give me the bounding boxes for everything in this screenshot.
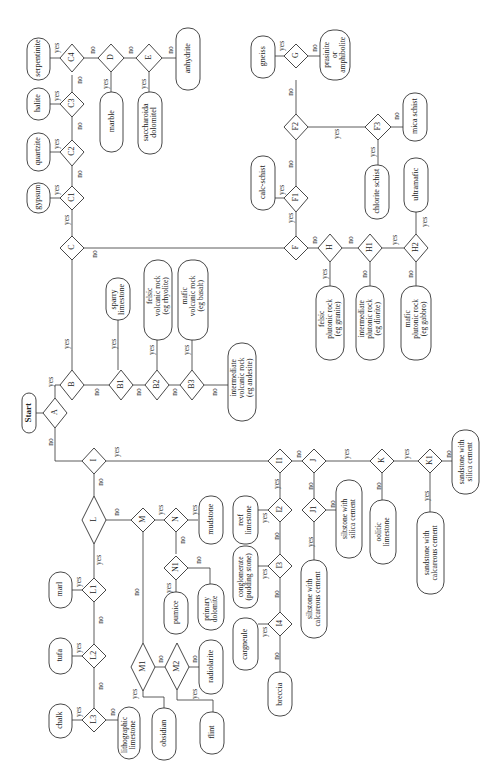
edge-label-c2-no: no <box>76 119 84 133</box>
edge-label-h1-yes: yes <box>391 233 399 247</box>
decision-c1: C1 <box>68 187 76 207</box>
outcome-chlorite-schist: chlorite schist <box>373 161 381 221</box>
outcome-pumice: pumice <box>172 582 180 642</box>
decision-a: A <box>51 402 59 422</box>
decision-c2: C2 <box>68 141 76 161</box>
outcome-conglomerate: conglomerate (pudding stone) <box>237 542 253 612</box>
decision-f1: F1 <box>292 187 300 207</box>
outcome-marl: marl <box>56 559 64 619</box>
decision-g: G <box>292 45 300 65</box>
decision-i3: I3 <box>276 555 284 575</box>
outcome-ultramafic: ultramafic <box>412 154 420 214</box>
decision-l3: L3 <box>90 709 98 729</box>
decision-e: E <box>145 47 153 67</box>
decision-f3: F3 <box>374 116 382 136</box>
edge-label-b-no: no <box>93 385 101 399</box>
edge-label-l1-yes: yes <box>75 575 83 589</box>
edge-label-m-no: no <box>133 585 141 599</box>
decision-i4: I4 <box>276 613 284 633</box>
decision-i1: I1 <box>276 450 284 470</box>
decision-l: L <box>90 509 98 529</box>
outcome-intermediate-plutonic: intermediate plutonic rock (eg diorite) <box>358 279 382 359</box>
edge-label-i3-no: no <box>273 587 281 601</box>
outcome-mafic-plutonic: mafic plutonic rock (eg gabbro) <box>404 279 428 359</box>
outcome-calc-schist: calc-schist <box>259 152 267 212</box>
decision-f2: F2 <box>292 116 300 136</box>
edge-label-l1-no: no <box>97 613 105 627</box>
edge-label-f1-yes: yes <box>278 183 286 197</box>
edge-label-h1-no: no <box>361 267 369 281</box>
decision-i2: I2 <box>276 499 284 519</box>
outcome-radiolarite: radiolarite <box>207 636 215 696</box>
edge-label-j1-yes: yes <box>307 535 315 549</box>
edge-label-i-yes: yes <box>113 445 121 459</box>
edge-label-m-yes: yes <box>157 503 165 517</box>
edge-label-c3-yes: yes <box>53 89 61 103</box>
decision-b: B <box>68 374 76 394</box>
outcome-sandstone-silica: sandstone with silica cement <box>458 421 474 503</box>
decision-m1: M1 <box>139 656 147 676</box>
outcome-prasinite-amphibolite: prasinite or amphibolite <box>323 25 347 85</box>
edge-label-c-yes: yes <box>63 213 71 227</box>
outcome-intermediate-volcanic: intermediate volcanic rock (eg andesite) <box>230 338 254 418</box>
edge-label-j-no: no <box>307 479 315 493</box>
edge-label-c1-yes: yes <box>53 183 61 197</box>
edge-label-i4-no: no <box>273 649 281 663</box>
edge-label-m2-no: no <box>191 652 199 666</box>
edge-label-m1-no: no <box>157 652 165 666</box>
outcome-oolitic-limestone: oolitic limestone <box>375 492 391 572</box>
edge-label-i-no: no <box>97 475 105 489</box>
edge-label-i1-yes: yes <box>273 477 281 491</box>
decision-j: J <box>310 450 318 470</box>
outcome-felsic-plutonic: felsic plutonic rock (eg granite) <box>318 279 342 359</box>
outcome-saccharoidal-dolomite: saccharoida dolomitel <box>142 92 159 152</box>
decision-h: H <box>326 237 334 257</box>
edge-label-l-no: no <box>113 505 121 519</box>
outcome-reef-limestone: reef limestone <box>237 490 253 550</box>
edge-label-i2-no: no <box>273 529 281 543</box>
edge-label-n-yes: yes <box>191 503 199 517</box>
edge-label-b1-yes: yes <box>110 337 118 351</box>
edge-label-h2-yes: yes <box>421 215 429 229</box>
decision-n: N <box>172 509 180 529</box>
outcome-obsidian: obsidian <box>160 703 168 763</box>
edge-label-b3-no: no <box>211 385 219 399</box>
decision-c4: C4 <box>68 47 76 67</box>
edge-label-l3-no: no <box>109 705 117 719</box>
edge-label-f3-yes: yes <box>369 145 377 159</box>
outcome-sandstone-calcareous: sandstone with calcareous cement <box>423 512 439 594</box>
edge-label-b2-yes: yes <box>148 343 156 357</box>
decision-f: F <box>292 237 300 257</box>
edge-label-g-yes: yes <box>278 39 286 53</box>
edge-label-c3-no: no <box>76 73 84 87</box>
edge-label-i2-yes: yes <box>261 511 269 525</box>
decision-h1: H1 <box>366 237 374 257</box>
edge-label-f3-no: no <box>393 109 401 123</box>
decision-n1: N1 <box>172 557 180 577</box>
edge-label-c4-yes: yes <box>53 41 61 55</box>
edge-label-m2-yes: yes <box>191 687 199 701</box>
edge-label-n1-no: no <box>195 553 203 567</box>
outcome-serpentinite: serpentinite <box>34 28 42 88</box>
decision-b2: B2 <box>153 374 161 394</box>
edge-label-f2-no: no <box>287 85 295 99</box>
outcome-gneiss: gneiss <box>259 26 267 86</box>
edge-label-l2-no: no <box>97 679 105 693</box>
edge-label-d-yes: yes <box>102 77 110 91</box>
outcome-mafic-volcanic: mafic volcanic rock (eg basalt) <box>181 256 205 336</box>
decision-c: C <box>68 237 76 257</box>
decision-l2: L2 <box>90 645 98 665</box>
edge-label-c2-yes: yes <box>53 137 61 151</box>
edge-label-k1-yes: yes <box>423 489 431 503</box>
edge-label-c1-no: no <box>76 167 84 181</box>
edge-label-h-yes: yes <box>321 267 329 281</box>
edge-label-k-no: no <box>375 479 383 493</box>
edge-label-f1-no: no <box>287 157 295 171</box>
outcome-siltstone-silica: siltstone with silica cement <box>341 479 357 559</box>
outcome-chalk: chalk <box>56 690 64 750</box>
edge-label-d-no: no <box>127 43 135 57</box>
edge-label-m1-yes: yes <box>131 687 139 701</box>
start-label: Start <box>24 393 33 433</box>
decision-c3: C3 <box>68 93 76 113</box>
outcome-mudstone: mudstone <box>207 489 215 549</box>
